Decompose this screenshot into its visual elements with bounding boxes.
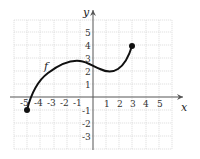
x-axis-label: x [181,101,188,114]
x-tick-labels: -5 -4 -3 -2 -1 1 2 3 4 5 [20,98,163,109]
function-graph: x y -5 -4 -3 -2 -1 1 2 3 4 5 5 4 3 2 1 -… [0,0,200,159]
y-axis-label: y [82,6,90,19]
y-tick: -1 [82,106,91,116]
x-tick: -4 [34,98,43,108]
x-tick: 4 [143,99,149,109]
y-tick: -3 [82,132,91,142]
x-tick: -3 [47,98,56,108]
y-tick: -2 [82,119,91,129]
x-tick: 3 [130,99,136,109]
y-tick-labels: 5 4 3 2 1 -1 -2 -3 [82,28,91,142]
y-tick: 2 [85,67,91,77]
x-tick: -2 [60,98,69,108]
y-tick: 4 [85,41,91,51]
x-tick: 5 [157,99,163,109]
x-tick: -1 [73,98,82,108]
endpoint-left [24,107,30,113]
y-tick: 1 [85,80,91,90]
endpoint-right [129,43,135,49]
x-tick: 2 [117,99,123,109]
y-tick: 5 [85,28,91,38]
x-tick: 1 [104,99,110,109]
